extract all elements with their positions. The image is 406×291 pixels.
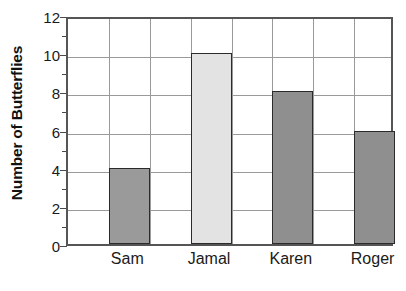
gridline-vertical bbox=[313, 19, 314, 244]
bar bbox=[109, 168, 150, 244]
bar bbox=[191, 53, 232, 244]
x-axis-tick-label: Sam bbox=[111, 250, 144, 268]
plot-area bbox=[66, 17, 393, 246]
y-axis-tick-label: 6 bbox=[52, 124, 60, 139]
y-axis-title: Number of Butterflies bbox=[0, 0, 34, 246]
y-axis-tick-label: 4 bbox=[52, 162, 60, 177]
bar bbox=[272, 91, 313, 244]
plot-inner bbox=[68, 19, 391, 244]
y-axis-tick-label: 2 bbox=[52, 200, 60, 215]
y-axis-title-label: Number of Butterflies bbox=[8, 46, 26, 200]
y-axis-tick-label: 8 bbox=[52, 86, 60, 101]
y-axis-tick-labels: 024681012 bbox=[34, 17, 60, 246]
y-axis-tick-mark-major bbox=[60, 246, 67, 247]
gridline-vertical bbox=[232, 19, 233, 244]
bar-chart: Number of Butterflies 024681012 SamJamal… bbox=[0, 0, 406, 291]
y-axis-tick-label: 12 bbox=[43, 10, 60, 25]
y-axis-tick-label: 10 bbox=[43, 48, 60, 63]
y-axis-tick-label: 0 bbox=[52, 239, 60, 254]
x-axis-tick-label: Roger bbox=[351, 250, 395, 268]
x-axis-tick-label: Karen bbox=[269, 250, 312, 268]
bar bbox=[354, 131, 395, 244]
x-axis-tick-label: Jamal bbox=[188, 250, 231, 268]
x-axis-tick-labels: SamJamalKarenRoger bbox=[66, 250, 393, 280]
gridline-vertical bbox=[150, 19, 151, 244]
